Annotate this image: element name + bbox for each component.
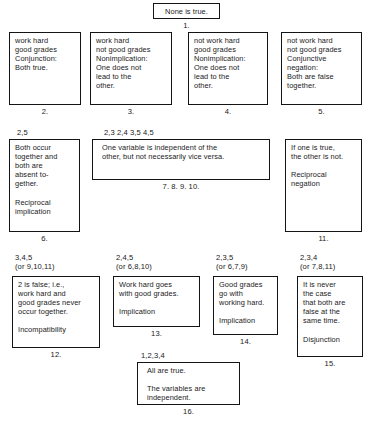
node-1-number: 1.: [153, 21, 220, 30]
node-16-text: All are true. The variables are independ…: [147, 366, 236, 402]
node-11-text: If one is true, the other is not. Recipr…: [291, 143, 358, 188]
node-5-number: 5.: [281, 107, 362, 116]
node-12-tag: 3,4,5 (or 9,10,11): [15, 253, 105, 271]
node-3-text: work hard not good grades Nonimplication…: [96, 36, 168, 91]
node-11-number: 11.: [285, 234, 362, 243]
node-13-number: 13.: [113, 329, 200, 338]
node-7-10-number: 7. 8. 9. 10.: [92, 182, 270, 191]
node-14-text: Good grades go with working hard. Implic…: [219, 280, 274, 325]
node-6-text: Both occur together and both are absent …: [15, 143, 76, 216]
node-4-text: not work hard good grades Nonimplication…: [194, 36, 264, 91]
node-box-15: It is never the case that both are false…: [297, 276, 363, 357]
logic-relations-diagram: None is true. 1. work hard good grades C…: [0, 0, 372, 422]
node-15-tag: 2,3,4 (or 7,8,11): [300, 253, 372, 271]
node-12-text: 2 is false; i.e., work hard and good gra…: [18, 280, 96, 335]
node-6-number: 6.: [9, 234, 80, 243]
node-box-12: 2 is false; i.e., work hard and good gra…: [12, 276, 100, 348]
node-16-tag: 1,2,3,4: [141, 351, 231, 360]
node-box-6: Both occur together and both are absent …: [9, 139, 80, 232]
node-2-text: work hard good grades Conjunction: Both …: [15, 36, 77, 72]
node-box-16: All are true. The variables are independ…: [137, 362, 240, 405]
node-box-11: If one is true, the other is not. Recipr…: [285, 139, 362, 232]
node-box-4: not work hard good grades Nonimplication…: [188, 32, 268, 105]
node-box-3: work hard not good grades Nonimplication…: [90, 32, 172, 105]
node-2-number: 2.: [9, 107, 81, 116]
node-16-number: 16.: [137, 407, 240, 416]
node-4-number: 4.: [188, 107, 268, 116]
node-5-text: not work hard not good grades Conjunctiv…: [287, 36, 358, 91]
node-box-13: Work hard goes with good grades. Implica…: [113, 276, 200, 327]
node-13-text: Work hard goes with good grades. Implica…: [119, 280, 196, 316]
node-15-text: It is never the case that both are false…: [303, 280, 359, 344]
node-1-text: None is true.: [154, 7, 219, 16]
node-box-14: Good grades go with working hard. Implic…: [213, 276, 278, 335]
node-7-10-tag: 2,3 2,4 3,5 4,5: [104, 128, 274, 137]
node-box-5: not work hard not good grades Conjunctiv…: [281, 32, 362, 105]
node-12-number: 12.: [12, 350, 100, 359]
node-box-7-10: One variable is independent of the other…: [92, 139, 270, 180]
node-3-number: 3.: [90, 107, 172, 116]
node-14-tag: 2,3,5 (or 6,7,9): [216, 253, 296, 271]
node-15-number: 15.: [297, 359, 363, 368]
node-13-tag: 2,4,5 (or 6,8,10): [116, 253, 206, 271]
node-7-10-text: One variable is independent of the other…: [102, 143, 266, 161]
node-6-tag: 2,5: [17, 128, 87, 137]
node-box-1: None is true.: [153, 3, 220, 19]
node-box-2: work hard good grades Conjunction: Both …: [9, 32, 81, 105]
node-14-number: 14.: [213, 337, 278, 346]
